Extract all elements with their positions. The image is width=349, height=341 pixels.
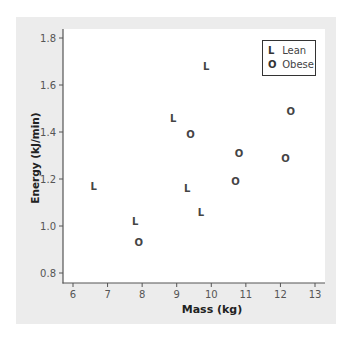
obese-marker-icon: O	[268, 59, 279, 70]
obese-data-point: O	[235, 148, 244, 159]
lean-data-point: L	[198, 207, 205, 218]
lean-data-point: L	[91, 181, 98, 192]
y-tick-label: 1.8	[40, 33, 56, 44]
obese-data-point: O	[186, 129, 195, 140]
y-tick-label: 1.2	[40, 174, 56, 185]
legend-item-lean: L Lean	[268, 45, 306, 56]
x-tick-label: 7	[104, 289, 110, 300]
obese-data-point: O	[231, 176, 240, 187]
x-tick-label: 11	[239, 289, 252, 300]
legend: L Lean O Obese	[262, 40, 316, 76]
x-tick-label: 12	[274, 289, 287, 300]
x-tick-label: 8	[139, 289, 145, 300]
obese-data-point: O	[281, 153, 290, 164]
legend-label-lean: Lean	[282, 45, 306, 56]
lean-marker-icon: L	[268, 45, 279, 56]
y-tick-label: 0.8	[40, 268, 56, 279]
lean-data-point: L	[132, 216, 139, 227]
y-tick-label: 1.4	[40, 127, 56, 138]
x-tick-label: 9	[174, 289, 180, 300]
obese-data-point: O	[287, 106, 296, 117]
legend-label-obese: Obese	[282, 59, 314, 70]
lean-data-point: L	[203, 61, 210, 72]
x-tick-label: 10	[205, 289, 218, 300]
y-tick-label: 1.0	[40, 221, 56, 232]
obese-data-point: O	[134, 237, 143, 248]
y-tick-label: 1.6	[40, 80, 56, 91]
x-tick-label: 13	[309, 289, 322, 300]
legend-item-obese: O Obese	[268, 59, 314, 70]
x-axis-title: Mass (kg)	[167, 303, 257, 316]
x-tick-label: 6	[70, 289, 76, 300]
y-axis-title: Energy (kJ/min)	[29, 112, 41, 203]
lean-data-point: L	[170, 113, 177, 124]
lean-data-point: L	[184, 183, 191, 194]
